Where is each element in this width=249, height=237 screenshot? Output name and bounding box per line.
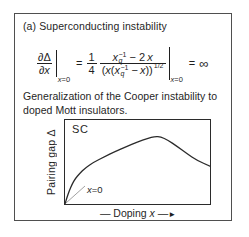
- evaluation-bar: [169, 47, 170, 80]
- evaluated-at-x0: x=0: [171, 75, 183, 84]
- lhs-derivative-fraction: ∂Δ ∂x: [36, 51, 53, 76]
- figure-panel-a: (a) Superconducting instability ∂Δ ∂x x=…: [0, 0, 249, 237]
- x-axis-arrowhead: ►: [168, 210, 175, 219]
- origin-annotation: x=0: [87, 184, 103, 195]
- infinity-symbol: ∞: [199, 58, 208, 69]
- derivative-numerator: ∂Δ: [36, 51, 53, 63]
- dome-plot: SC x=0: [64, 119, 211, 205]
- figure-title: (a) Superconducting instability: [23, 20, 167, 32]
- figure-border: (a) Superconducting instability ∂Δ ∂x x=…: [14, 13, 232, 221]
- pairing-gap-derivative-equation: ∂Δ ∂x x=0 = 1 4 x−1q− 2x (x(x−1q−x))1/2: [36, 44, 209, 82]
- main-fraction: x−1q− 2x (x(x−1q−x))1/2: [100, 51, 166, 76]
- xq-inverse-scripts: −1q: [121, 64, 129, 76]
- evaluation-bar: [56, 50, 57, 77]
- equals-sign: =: [76, 57, 82, 69]
- main-numerator: x−1q− 2x: [111, 51, 155, 63]
- one-quarter-fraction: 1 4: [87, 51, 97, 76]
- equals-sign: =: [189, 57, 195, 69]
- evaluated-at-x0: x=0: [58, 75, 70, 84]
- origin-leader-line: [66, 186, 85, 203]
- derivative-denominator: ∂x: [37, 63, 52, 76]
- figure-caption: Generalization of the Cooper instability…: [23, 90, 233, 117]
- y-axis-label: Pairing gap Δ: [43, 119, 58, 205]
- xq-inverse-scripts: −1q: [119, 51, 127, 63]
- exponent-one-half: 1/2: [154, 60, 164, 72]
- sc-region-label: SC: [72, 123, 88, 135]
- main-denominator: (x(x−1q−x))1/2: [100, 63, 166, 76]
- x-axis-label: — Doping x —►: [64, 207, 211, 219]
